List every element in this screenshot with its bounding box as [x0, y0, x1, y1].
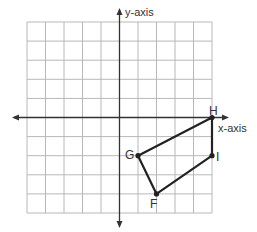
vertex-point-i — [209, 153, 214, 158]
vertex-label-g: G — [125, 149, 134, 161]
vertex-point-g — [135, 153, 140, 158]
coordinate-plane: y-axis x-axis H I F G — [0, 0, 257, 232]
x-axis-label: x-axis — [218, 123, 247, 134]
vertex-label-h: H — [209, 105, 218, 117]
y-axis-label: y-axis — [125, 7, 154, 18]
vertex-label-i: I — [216, 151, 219, 163]
coordinate-grid-svg — [0, 0, 257, 232]
vertex-point-f — [154, 191, 159, 196]
vertex-label-f: F — [150, 198, 157, 210]
